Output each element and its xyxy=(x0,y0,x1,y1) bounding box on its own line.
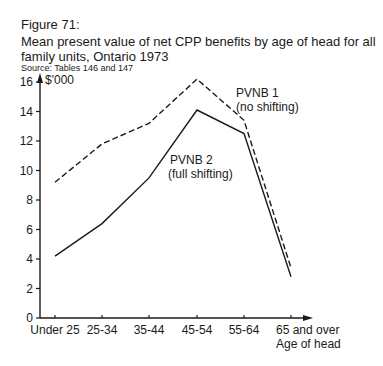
annotation-pvnb2: PVNB 2 (full shifting) xyxy=(168,153,233,181)
series-pvnb2-line xyxy=(55,110,291,277)
x-tick-label: 65 and over xyxy=(276,323,339,337)
x-tick-label: 45-54 xyxy=(182,323,213,337)
y-tick-label: 16 xyxy=(20,75,34,89)
x-axis-arrow-icon xyxy=(303,315,313,321)
y-tick-label: 2 xyxy=(26,282,33,296)
y-tick-label: 4 xyxy=(26,252,33,266)
y-tick-label: 12 xyxy=(20,134,34,148)
y-tick-label: 14 xyxy=(20,105,34,119)
x-tick-label: 25-34 xyxy=(87,323,118,337)
y-axis-unit: $'000 xyxy=(45,73,74,87)
annotation-pvnb1: PVNB 1 (no shifting) xyxy=(236,86,299,114)
x-axis-title: Age of head xyxy=(276,337,341,351)
svg-text:PVNB 2: PVNB 2 xyxy=(170,153,213,167)
x-tick-label: 35-44 xyxy=(134,323,165,337)
svg-text:(no shifting): (no shifting) xyxy=(236,100,299,114)
y-axis: 0246810121416 $'000 xyxy=(20,73,75,325)
x-tick-label: 55-64 xyxy=(229,323,260,337)
x-tick-label: Under 25 xyxy=(30,323,80,337)
svg-text:(full shifting): (full shifting) xyxy=(168,167,233,181)
x-axis: Under 2525-3435-4445-5455-6465 and over … xyxy=(30,315,340,351)
y-tick-label: 10 xyxy=(20,164,34,178)
svg-text:PVNB 1: PVNB 1 xyxy=(236,86,279,100)
y-tick-label: 6 xyxy=(26,223,33,237)
chart-canvas: 0246810121416 $'000 Under 2525-3435-4445… xyxy=(0,0,383,366)
y-tick-label: 8 xyxy=(26,193,33,207)
